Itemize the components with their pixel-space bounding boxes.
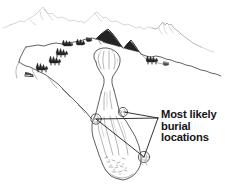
callout-line-3: locations	[161, 132, 225, 144]
tree-clump	[86, 37, 92, 42]
tree-clump	[56, 48, 68, 57]
tree-clump	[25, 72, 33, 77]
avalanche-start-zone-bowl	[94, 48, 120, 93]
leader-line-to-left-gully	[96, 118, 158, 119]
callout-line-1: Most likely	[161, 109, 225, 121]
right-peak	[152, 22, 214, 52]
avalanche-diagram-figure: Most likely burial locations	[0, 0, 225, 194]
dark-shaded-peak	[96, 29, 141, 54]
avalanche-track-gully	[95, 90, 120, 116]
diagram-canvas	[0, 0, 225, 194]
tree-clump	[163, 61, 169, 66]
tree-clump	[62, 40, 73, 46]
distant-ridgeline	[3, 7, 152, 29]
callout-label: Most likely burial locations	[161, 109, 225, 144]
debris-marks	[105, 157, 127, 175]
tree-clump	[49, 56, 61, 65]
leader-line-base	[96, 119, 144, 157]
tree-clump	[36, 63, 48, 72]
conifer-tree-clumps	[25, 37, 169, 77]
leader-line-to-lower-fan	[144, 118, 158, 157]
leader-line-to-mid-bench	[124, 112, 158, 118]
